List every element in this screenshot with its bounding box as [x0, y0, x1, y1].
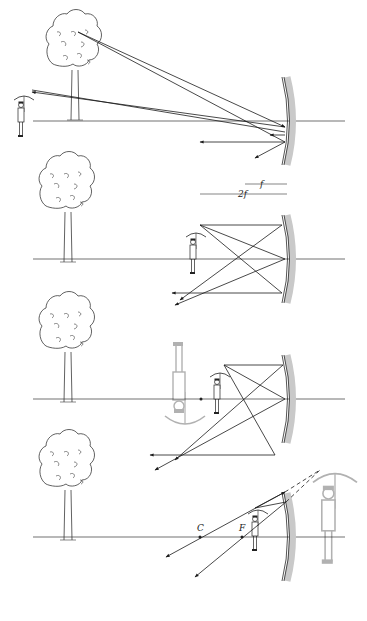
panel-far-object: [14, 10, 345, 166]
diagram-canvas: f 2f: [0, 0, 367, 621]
focus-label: F: [238, 523, 246, 533]
focal-length-markers: f 2f: [200, 179, 287, 199]
virtual-image-ghost: [313, 474, 357, 564]
center-point: [200, 398, 203, 401]
observer-person: [14, 96, 34, 137]
light-rays: [166, 492, 286, 577]
ray-diagram: f 2f: [0, 0, 367, 621]
tree-object: [39, 292, 94, 403]
2f-label: 2f: [237, 189, 249, 199]
observer-person: [186, 233, 206, 274]
observer-person: [210, 373, 230, 414]
tree-object: [39, 152, 94, 263]
tree-object: [46, 10, 101, 121]
panel-object-at-2f: [33, 152, 345, 306]
tree-object: [39, 430, 94, 541]
center-label: C: [197, 523, 204, 533]
panel-object-inside-f: C F: [33, 430, 357, 582]
inverted-image-ghost: [165, 342, 205, 424]
